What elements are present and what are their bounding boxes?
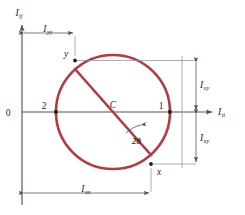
point-1-label: 1	[159, 101, 164, 111]
point-y-marker	[73, 59, 77, 63]
dimension-ixy-upper-subscript: xy	[203, 84, 210, 91]
dimension-ixy-lower-label: Ixy	[199, 133, 209, 144]
dimension-ixy-lower: Ixy	[196, 114, 209, 162]
point-x-marker	[149, 162, 153, 166]
horizontal-axis-subscript: ii	[222, 111, 226, 118]
point-2-label: 2	[42, 101, 47, 111]
dimension-ixy-upper: Ixy	[196, 63, 209, 111]
angle-2theta-label: 2θ	[131, 136, 141, 146]
mohrs-circle-svg: Iij Iii 0 2θ 2 1 y x C	[0, 0, 245, 215]
dimension-ixy-upper-label: Ixy	[199, 80, 209, 91]
center-c-label: C	[110, 100, 117, 110]
point-x-label: x	[156, 167, 162, 177]
vertical-axis-subscript: ij	[19, 12, 23, 19]
point-1-marker	[168, 110, 171, 113]
dimension-ixx-label: Ixx	[80, 184, 90, 195]
point-y-label: y	[63, 49, 69, 59]
origin-label: 0	[6, 108, 11, 118]
dimension-ixx-subscript: xx	[84, 188, 91, 195]
vertical-axis-label: Iij	[14, 8, 22, 19]
dimension-iyy-subscript: yy	[46, 28, 53, 35]
point-2-marker	[54, 110, 57, 113]
dimension-ixy-lower-subscript: xy	[203, 137, 210, 144]
dimension-ixx: Ixx	[24, 184, 149, 195]
horizontal-axis-label: Iii	[217, 107, 225, 118]
mohrs-circle-figure: Iij Iii 0 2θ 2 1 y x C	[0, 0, 245, 215]
dimension-iyy: Iyy	[24, 24, 73, 35]
dimension-iyy-label: Iyy	[42, 24, 52, 35]
